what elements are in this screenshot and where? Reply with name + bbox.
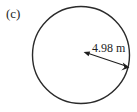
panel-label: (c) [6, 6, 20, 21]
circle-diagram: (c) 4.98 m [0, 0, 137, 112]
radius-dimension-label: 4.98 m [92, 41, 126, 55]
figure-background [0, 0, 137, 112]
figure-panel-c: (c) 4.98 m [0, 0, 137, 112]
